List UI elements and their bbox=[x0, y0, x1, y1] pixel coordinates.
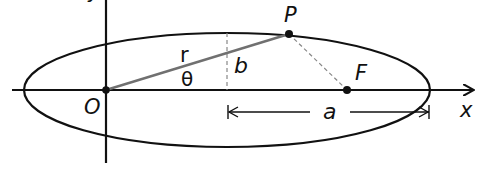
focus-point bbox=[343, 86, 351, 94]
semi-major-label: a bbox=[323, 99, 336, 124]
point-p-label: P bbox=[284, 3, 297, 27]
semi-minor-label: b bbox=[234, 53, 248, 78]
origin-point bbox=[102, 86, 110, 94]
angle-label: θ bbox=[181, 67, 193, 91]
ellipse-diagram: y O P F r θ b x a bbox=[0, 0, 487, 170]
point-p bbox=[285, 30, 293, 38]
focus-label: F bbox=[355, 61, 368, 85]
radius-line bbox=[106, 34, 289, 90]
y-axis-label: y bbox=[87, 0, 101, 3]
origin-label: O bbox=[84, 95, 101, 119]
x-axis-label: x bbox=[459, 98, 473, 122]
radius-label: r bbox=[180, 43, 189, 67]
